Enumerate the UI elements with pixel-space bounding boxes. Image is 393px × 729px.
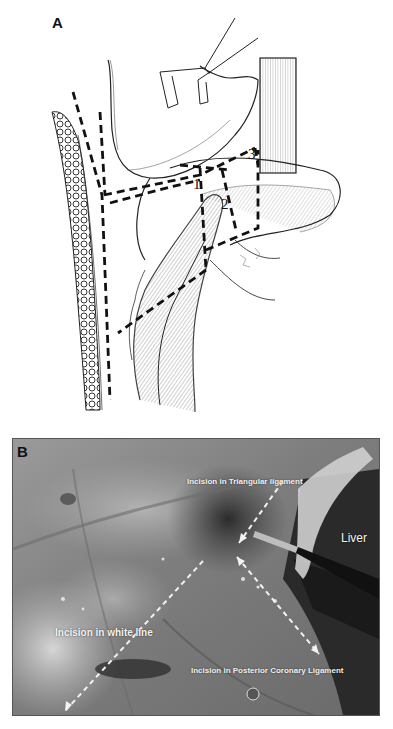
surgical-drawing [0,0,393,425]
region-number-1: 1 [193,176,201,193]
label-triangular-ligament: Incision in Triangular ligament [187,477,303,486]
mesentery [210,240,280,300]
vena-cava [260,58,296,173]
label-posterior-coronary-ligament: Incision in Posterior Coronary Ligament [191,666,343,675]
panel-b-label: B [17,443,28,460]
label-liver: Liver [341,531,367,545]
region-number-3: 3 [248,146,256,163]
panel-b-photograph: B Incision in Triangular ligament Liver … [12,438,380,716]
panel-a-illustration: A [0,0,393,425]
abdominal-wall [52,112,100,410]
colon [134,195,223,412]
liver-lobe [108,60,258,178]
region-number-2: 2 [221,196,229,213]
label-white-line: Incision in white line [55,627,153,638]
forceps [160,18,258,108]
